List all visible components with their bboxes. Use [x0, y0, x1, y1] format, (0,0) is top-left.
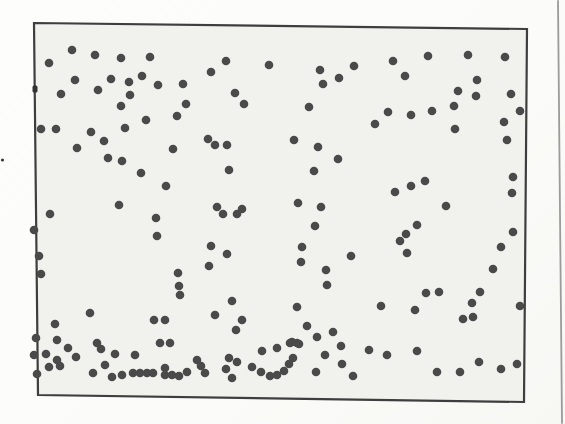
scanned-figure-page: [0, 0, 565, 424]
page-edge-line: [558, 1, 562, 423]
frame-tick-mark: [33, 86, 38, 93]
scan-speck: [1, 158, 4, 161]
scatter-figure: [0, 0, 565, 424]
